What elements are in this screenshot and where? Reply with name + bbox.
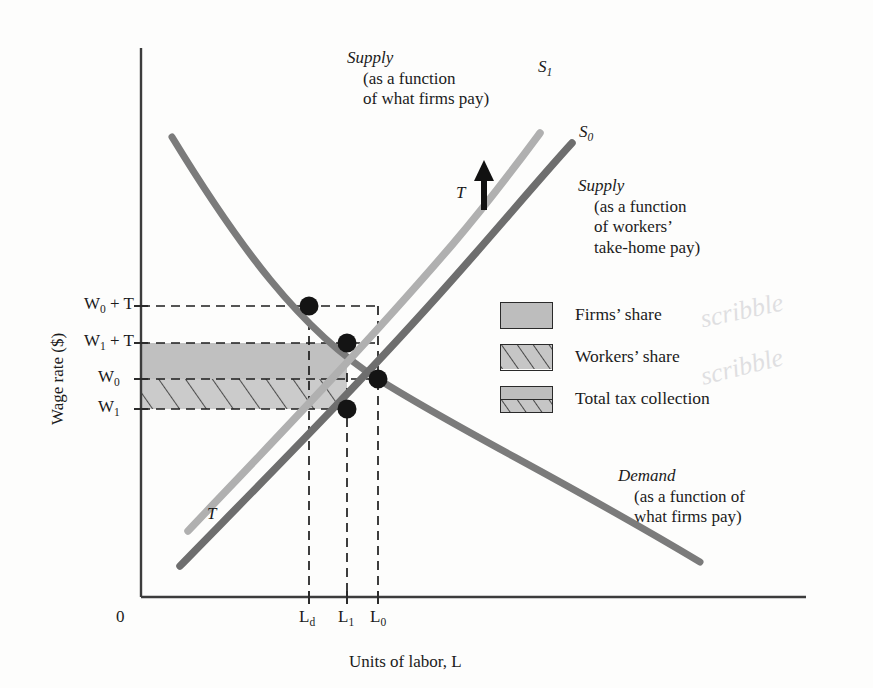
- y-tick-suffix: + T: [106, 331, 134, 350]
- dot-new-eq-firms-pay: [338, 334, 357, 353]
- y-tick-label-w0: W0: [98, 367, 120, 389]
- x-tick-base: L: [299, 607, 309, 626]
- label-supply-workers-line2: (as a function: [578, 197, 700, 218]
- figure-canvas: Wage rate ($) W0 + T W1 + T W0 W1 0 Ld L…: [0, 0, 873, 688]
- curve-tag-base: S: [579, 122, 588, 141]
- label-demand-head: Demand: [618, 466, 745, 487]
- dot-original-eq: [369, 370, 388, 389]
- x-axis-title: Units of labor, L: [349, 652, 462, 673]
- supply-curve-s1: [188, 133, 540, 531]
- y-tick-label-w1: W1: [98, 397, 120, 419]
- hatch-fill-icon: [501, 345, 552, 369]
- x-tick-base: L: [370, 607, 380, 626]
- x-tick-label-ld: Ld: [299, 607, 315, 629]
- y-tick-base: W: [84, 331, 100, 350]
- x-tick-sub: 0: [380, 616, 386, 628]
- label-supply-firms-line2: (as a function: [347, 69, 489, 90]
- legend-swatch-firms-share: [500, 302, 553, 329]
- dot-new-eq-take-home: [338, 400, 357, 419]
- x-axis-title-text: Units of labor, L: [349, 652, 462, 671]
- label-supply-workers-head: Supply: [578, 176, 700, 197]
- dot-demand-at-ld: [300, 297, 319, 316]
- label-supply-workers-line4: take-home pay): [578, 238, 700, 259]
- label-supply-firms-line3: of what firms pay): [347, 89, 489, 110]
- label-demand: Demand (as a function of what firms pay): [618, 466, 745, 528]
- curve-tag-base: S: [538, 57, 547, 76]
- curve-tag-s1: S1: [538, 57, 552, 79]
- legend-swatch-workers-share: [500, 344, 553, 371]
- x-tick-sub: d: [309, 616, 315, 628]
- legend-label-firms-share: Firms’ share: [575, 304, 662, 325]
- curve-tag-sub: 0: [588, 131, 594, 143]
- region-firms-share: [141, 343, 347, 379]
- legend-label-workers-share: Workers’ share: [575, 346, 680, 367]
- x-tick-label-l1: L1: [338, 607, 354, 629]
- y-tick-label-w1-plus-t: W1 + T: [84, 331, 134, 353]
- y-tick-base: W: [98, 397, 114, 416]
- label-tax-gap: T: [207, 504, 216, 525]
- y-tick-label-w0-plus-t: W0 + T: [84, 294, 134, 316]
- y-axis-title: Wage rate ($): [48, 333, 68, 425]
- label-tax-shift-arrow: T: [456, 183, 465, 204]
- hatch-fill-icon: [501, 400, 552, 412]
- curve-tag-sub: 1: [547, 66, 553, 78]
- label-supply-workers-line3: of workers’: [578, 217, 700, 238]
- total-tax-upper-band: [501, 387, 552, 400]
- label-supply-firms-pay: Supply (as a function of what firms pay): [347, 48, 489, 110]
- y-tick-suffix: + T: [106, 294, 134, 313]
- label-demand-line2: (as a function of: [618, 487, 745, 508]
- legend-label-total-tax: Total tax collection: [575, 388, 710, 409]
- y-tick-sub: 1: [114, 406, 120, 418]
- y-tick-base: W: [98, 367, 114, 386]
- legend-swatch-total-tax: [500, 386, 553, 413]
- label-supply-take-home: Supply (as a function of workers’ take-h…: [578, 176, 700, 259]
- y-tick-base: W: [84, 294, 100, 313]
- x-tick-sub: 1: [348, 616, 354, 628]
- origin-label: 0: [116, 607, 125, 628]
- x-tick-label-l0: L0: [370, 607, 386, 629]
- y-tick-sub: 0: [114, 376, 120, 388]
- label-demand-line3: what firms pay): [618, 507, 745, 528]
- label-supply-firms-head: Supply: [347, 48, 489, 69]
- x-tick-base: L: [338, 607, 348, 626]
- curve-tag-s0: S0: [579, 122, 593, 144]
